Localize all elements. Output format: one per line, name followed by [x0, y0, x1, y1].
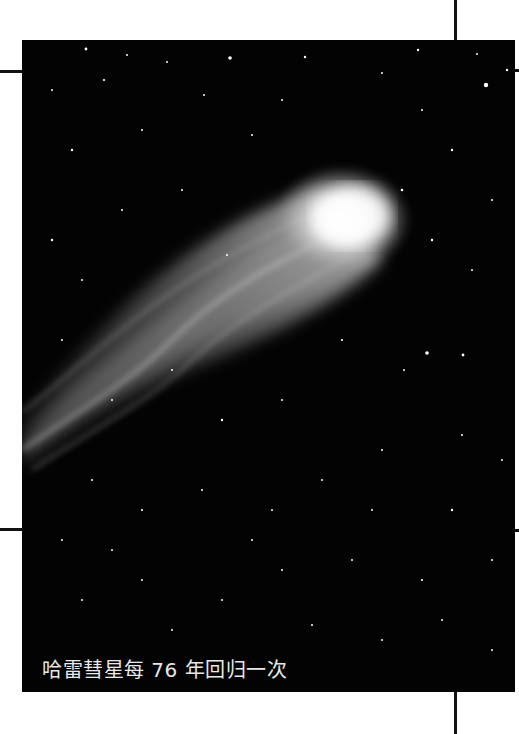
comet-photo: 哈雷彗星每 76 年回归一次 — [22, 40, 515, 692]
trim-mark-right-top — [515, 69, 519, 72]
trim-mark-left-top — [0, 70, 22, 73]
trim-mark-left-bottom — [0, 528, 22, 531]
trim-mark-right-bottom — [515, 529, 519, 532]
trim-mark-top-vertical — [454, 0, 457, 40]
comet-illustration — [22, 40, 515, 692]
photo-caption: 哈雷彗星每 76 年回归一次 — [42, 654, 287, 683]
trim-mark-bottom-vertical — [454, 692, 457, 734]
